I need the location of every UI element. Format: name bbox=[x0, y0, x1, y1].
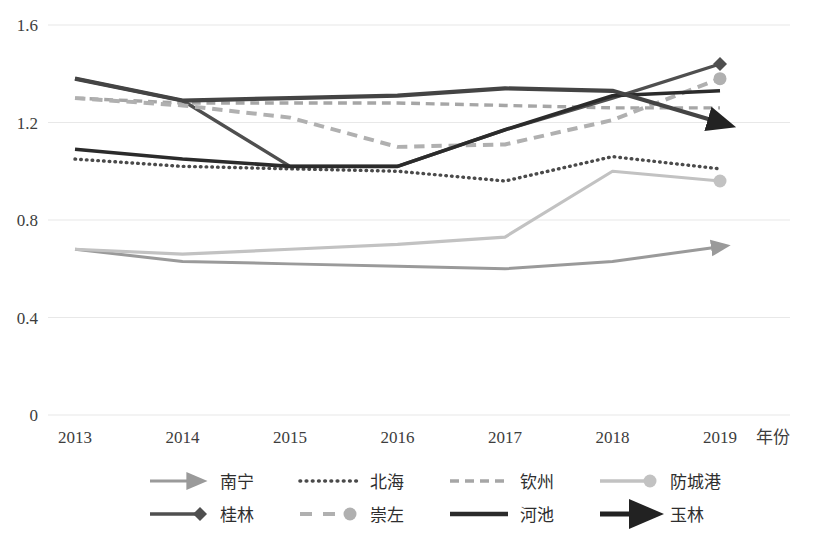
x-tick-label: 2013 bbox=[58, 428, 92, 447]
legend-label-崇左: 崇左 bbox=[370, 506, 404, 525]
x-tick-label: 2019 bbox=[703, 428, 737, 447]
x-tick-label: 2015 bbox=[273, 428, 307, 447]
y-tick-label: 1.2 bbox=[17, 114, 38, 133]
y-tick-label: 1.6 bbox=[17, 16, 38, 35]
x-tick-label: 2016 bbox=[381, 428, 415, 447]
chart-canvas: 00.40.81.21.6 20132014201520162017201820… bbox=[0, 0, 813, 553]
legend-item-钦州[interactable]: 钦州 bbox=[450, 473, 554, 492]
series-北海 bbox=[75, 157, 720, 181]
data-series-layer bbox=[75, 57, 727, 269]
y-tick-label: 0.4 bbox=[17, 309, 39, 328]
legend-label-北海: 北海 bbox=[370, 473, 404, 492]
legend-item-防城港[interactable]: 防城港 bbox=[600, 473, 721, 492]
x-tick-label: 2018 bbox=[596, 428, 630, 447]
series-南宁 bbox=[75, 247, 720, 269]
chart-legend: 南宁北海钦州防城港桂林崇左河池玉林 bbox=[150, 473, 721, 525]
legend-marker-防城港 bbox=[644, 475, 657, 488]
series-崇左 bbox=[75, 72, 727, 147]
x-tick-label: 2014 bbox=[166, 428, 201, 447]
legend-item-崇左[interactable]: 崇左 bbox=[300, 506, 404, 525]
legend-marker-崇左 bbox=[344, 508, 357, 521]
legend-item-河池[interactable]: 河池 bbox=[450, 506, 554, 525]
legend-label-防城港: 防城港 bbox=[670, 473, 721, 492]
legend-item-南宁[interactable]: 南宁 bbox=[150, 473, 254, 492]
series-end-marker bbox=[714, 175, 727, 188]
legend-item-北海[interactable]: 北海 bbox=[300, 473, 404, 492]
line-chart: 00.40.81.21.6 20132014201520162017201820… bbox=[0, 0, 813, 553]
x-axis-tick-labels: 2013201420152016201720182019 bbox=[58, 428, 737, 447]
y-tick-label: 0.8 bbox=[17, 211, 38, 230]
series-line bbox=[75, 157, 720, 181]
y-axis-tick-labels: 00.40.81.21.6 bbox=[17, 16, 39, 425]
gridlines bbox=[48, 25, 790, 415]
legend-label-南宁: 南宁 bbox=[220, 473, 254, 492]
y-tick-label: 0 bbox=[30, 406, 39, 425]
series-防城港 bbox=[75, 171, 727, 254]
series-line bbox=[75, 79, 720, 147]
legend-label-桂林: 桂林 bbox=[220, 506, 254, 525]
legend-label-玉林: 玉林 bbox=[670, 506, 704, 525]
legend-item-桂林[interactable]: 桂林 bbox=[150, 506, 254, 525]
legend-item-玉林[interactable]: 玉林 bbox=[600, 506, 704, 525]
legend-label-河池: 河池 bbox=[520, 506, 554, 525]
series-line bbox=[75, 247, 720, 269]
series-end-marker bbox=[713, 57, 727, 71]
series-桂林 bbox=[75, 57, 727, 166]
series-line bbox=[75, 171, 720, 254]
legend-label-钦州: 钦州 bbox=[520, 473, 554, 492]
x-tick-label: 2017 bbox=[488, 428, 523, 447]
series-end-marker bbox=[714, 72, 727, 85]
legend-marker-桂林 bbox=[193, 507, 207, 521]
x-axis-title: 年份 bbox=[756, 428, 790, 447]
